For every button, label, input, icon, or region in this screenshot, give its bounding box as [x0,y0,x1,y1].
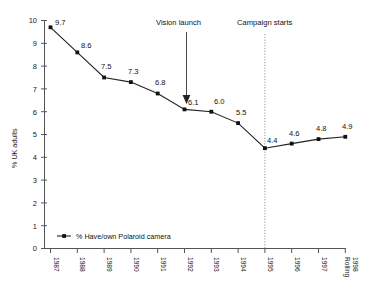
data-value-labels: 9.7 8.6 7.5 7.3 6.8 6.1 6.0 5.5 4.4 4.6 … [55,18,353,145]
y-tick-label: 3 [33,176,37,185]
series-markers [49,25,348,150]
data-label: 9.7 [55,18,66,27]
annotation-campaign-starts-label: Campaign starts [237,18,292,27]
x-axis-tick-labels: 1987 1988 1989 1990 1991 1992 1993 1994 … [53,257,359,277]
x-tick-label: 1994 [240,257,247,272]
data-label: 4.6 [289,129,300,138]
data-label: 4.8 [316,124,327,133]
y-tick-label: 9 [33,39,37,48]
annotation-vision-launch-arrow [183,32,191,104]
y-tick-label: 6 [33,108,37,117]
data-point [49,25,53,29]
x-tick-label: 1988 [79,257,86,272]
data-label: 4.9 [342,122,353,131]
legend-marker-swatch [62,234,66,238]
chart-legend: % Have/own Polaroid camera [57,232,171,241]
data-label: 7.3 [128,67,139,76]
x-tick-label: 1991 [160,257,167,272]
data-point [209,110,213,114]
data-point [317,137,321,141]
y-tick-label: 1 [33,222,37,231]
data-label: 5.5 [236,108,247,117]
y-tick-label: 2 [33,199,37,208]
x-tick-label: 1996 [294,257,301,272]
data-point [183,108,187,112]
y-axis-title: % UK adults [10,128,19,168]
data-point [129,80,133,84]
x-tick-label-rolling-line2: 1998 [352,257,359,272]
x-tick-label: 1989 [106,257,113,272]
x-tick-label: 1992 [187,257,194,272]
data-label: 6.1 [188,98,199,107]
data-label: 6.8 [155,78,166,87]
y-axis-tick-labels: 10 9 8 7 6 5 4 3 2 1 0 [29,16,37,253]
x-tick-label: 1997 [321,257,328,272]
data-label: 8.6 [81,41,92,50]
x-tick-label: 1993 [213,257,220,272]
data-point [263,146,267,150]
x-axis-ticks [51,249,346,254]
y-tick-label: 5 [33,130,37,139]
chart-container: 10 9 8 7 6 5 4 3 2 1 0 % UK adults [0,0,369,296]
x-tick-label: 1990 [133,257,140,272]
data-point [102,76,106,80]
legend-label: % Have/own Polaroid camera [76,232,171,241]
y-tick-label: 0 [33,244,37,253]
line-chart: 10 9 8 7 6 5 4 3 2 1 0 % UK adults [0,0,369,296]
data-label: 7.5 [101,62,112,71]
x-tick-label: 1995 [267,257,274,272]
series-polyline-polaroid [51,27,346,148]
y-tick-label: 4 [33,153,37,162]
data-point [343,135,347,139]
data-point [156,92,160,96]
y-tick-label: 10 [29,16,37,25]
y-tick-label: 7 [33,85,37,94]
annotation-vision-launch-label: Vision launch [156,18,201,27]
data-point [290,142,294,146]
x-tick-label-rolling-line1: Rolling [343,257,351,277]
x-tick-label: 1987 [53,257,60,272]
data-point [236,121,240,125]
data-point [75,51,79,55]
data-label: 6.0 [214,97,225,106]
y-tick-label: 8 [33,62,37,71]
data-label: 4.4 [267,136,278,145]
